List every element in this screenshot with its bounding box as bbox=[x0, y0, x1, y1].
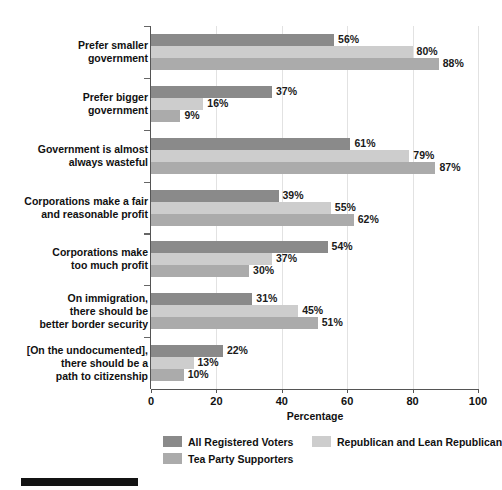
category-label: Prefer smallergovernment bbox=[0, 39, 148, 65]
bar[interactable] bbox=[151, 214, 354, 226]
bar[interactable] bbox=[151, 369, 184, 381]
x-tick-label-80: 80 bbox=[406, 395, 418, 407]
category-label: [On the undocumented],there should be ap… bbox=[0, 344, 148, 383]
x-tick-mark-0 bbox=[151, 389, 152, 393]
legend-label-all-registered-voters: All Registered Voters bbox=[188, 436, 293, 448]
bar[interactable] bbox=[151, 241, 328, 253]
x-axis-title: Percentage bbox=[151, 410, 479, 422]
category-label-line: [On the undocumented], bbox=[0, 344, 148, 357]
bar-group: 31%45%51% bbox=[151, 293, 478, 329]
x-tick-label-60: 60 bbox=[341, 395, 353, 407]
category-tick bbox=[144, 130, 150, 131]
bar-value-label: 56% bbox=[338, 33, 359, 46]
x-tick-label-100: 100 bbox=[469, 395, 487, 407]
bar-row: 88% bbox=[151, 58, 478, 70]
bar[interactable] bbox=[151, 110, 180, 122]
bar-value-label: 31% bbox=[256, 292, 277, 305]
bar-value-label: 30% bbox=[253, 264, 274, 277]
bar[interactable] bbox=[151, 58, 439, 70]
bar[interactable] bbox=[151, 138, 350, 150]
bar-row: 51% bbox=[151, 317, 478, 329]
legend-row-2: Tea Party Supporters bbox=[163, 450, 493, 467]
bar[interactable] bbox=[151, 202, 331, 214]
bar-row: 37% bbox=[151, 253, 478, 265]
bar-value-label: 9% bbox=[184, 109, 199, 122]
category-label: Corporations maketoo much profit bbox=[0, 246, 148, 272]
bar-value-label: 45% bbox=[302, 304, 323, 317]
category-label-line: Corporations make a fair bbox=[0, 195, 148, 208]
category-label-line: On immigration, bbox=[0, 292, 148, 305]
x-tick-label-40: 40 bbox=[276, 395, 288, 407]
category-tick bbox=[144, 233, 150, 234]
category-label-line: there should be a bbox=[0, 357, 148, 370]
category-label-line: Prefer smaller bbox=[0, 39, 148, 52]
bar[interactable] bbox=[151, 305, 298, 317]
x-tick-mark-40 bbox=[282, 389, 283, 393]
category-tick bbox=[144, 285, 150, 286]
bar-value-label: 80% bbox=[417, 45, 438, 58]
x-axis-line bbox=[151, 389, 479, 390]
bar[interactable] bbox=[151, 265, 249, 277]
bar-row: 10% bbox=[151, 369, 478, 381]
legend-swatch-tea-party-supporters bbox=[163, 453, 182, 464]
bar[interactable] bbox=[151, 190, 279, 202]
bar-value-label: 22% bbox=[227, 344, 248, 357]
grouped-bar-chart: 56%80%88%37%16%9%61%79%87%39%55%62%54%37… bbox=[0, 0, 502, 490]
category-label-line: Prefer bigger bbox=[0, 91, 148, 104]
legend-label-republican-and-lean-republican: Republican and Lean Republican bbox=[337, 436, 502, 448]
bar-value-label: 37% bbox=[276, 85, 297, 98]
category-tick bbox=[144, 337, 150, 338]
bar[interactable] bbox=[151, 34, 334, 46]
bar-row: 62% bbox=[151, 214, 478, 226]
bar-value-label: 62% bbox=[358, 213, 379, 226]
x-tick-mark-100 bbox=[478, 389, 479, 393]
bar-row: 16% bbox=[151, 98, 478, 110]
bar-row: 55% bbox=[151, 202, 478, 214]
legend-entry-republican-and-lean-republican[interactable]: Republican and Lean Republican bbox=[312, 433, 502, 450]
bar-row: 45% bbox=[151, 305, 478, 317]
bar-value-label: 61% bbox=[354, 137, 375, 150]
legend-swatch-republican-and-lean-republican bbox=[312, 436, 331, 447]
category-label-line: Corporations make bbox=[0, 246, 148, 259]
bar-row: 79% bbox=[151, 150, 478, 162]
category-tick bbox=[144, 182, 150, 183]
bar-value-label: 55% bbox=[335, 201, 356, 214]
gridline-100 bbox=[478, 26, 479, 389]
category-label-line: government bbox=[0, 52, 148, 65]
legend-entry-all-registered-voters[interactable]: All Registered Voters bbox=[163, 433, 293, 450]
bar[interactable] bbox=[151, 162, 435, 174]
bottom-black-rule bbox=[21, 478, 138, 486]
bar-value-label: 39% bbox=[283, 189, 304, 202]
bar-row: 80% bbox=[151, 46, 478, 58]
bar-value-label: 54% bbox=[332, 240, 353, 253]
x-tick-mark-60 bbox=[347, 389, 348, 393]
bar-group: 22%13%10% bbox=[151, 345, 478, 381]
legend-label-tea-party-supporters: Tea Party Supporters bbox=[188, 453, 293, 465]
bar-value-label: 88% bbox=[443, 57, 464, 70]
category-label-line: always wasteful bbox=[0, 156, 148, 169]
bar-group: 56%80%88% bbox=[151, 34, 478, 70]
bar-group: 39%55%62% bbox=[151, 190, 478, 226]
bar-row: 87% bbox=[151, 162, 478, 174]
legend-swatch-all-registered-voters bbox=[163, 436, 182, 447]
x-tick-label-20: 20 bbox=[210, 395, 222, 407]
category-tick bbox=[144, 78, 150, 79]
legend-entry-tea-party-supporters[interactable]: Tea Party Supporters bbox=[163, 450, 293, 467]
category-label-line: better border security bbox=[0, 318, 148, 331]
bar[interactable] bbox=[151, 317, 318, 329]
bar-group: 37%16%9% bbox=[151, 86, 478, 122]
category-label-line: path to citizenship bbox=[0, 370, 148, 383]
x-tick-mark-20 bbox=[216, 389, 217, 393]
category-label: Corporations make a fairand reasonable p… bbox=[0, 195, 148, 221]
bar[interactable] bbox=[151, 150, 409, 162]
category-label: On immigration,there should bebetter bor… bbox=[0, 292, 148, 331]
category-label-line: too much profit bbox=[0, 259, 148, 272]
x-tick-mark-80 bbox=[413, 389, 414, 393]
category-label-line: and reasonable profit bbox=[0, 208, 148, 221]
bar-value-label: 79% bbox=[413, 149, 434, 162]
legend-row-1: All Registered Voters Republican and Lea… bbox=[163, 433, 493, 450]
category-label-line: Government is almost bbox=[0, 143, 148, 156]
bar[interactable] bbox=[151, 46, 413, 58]
bar-group: 54%37%30% bbox=[151, 241, 478, 277]
bar[interactable] bbox=[151, 293, 252, 305]
